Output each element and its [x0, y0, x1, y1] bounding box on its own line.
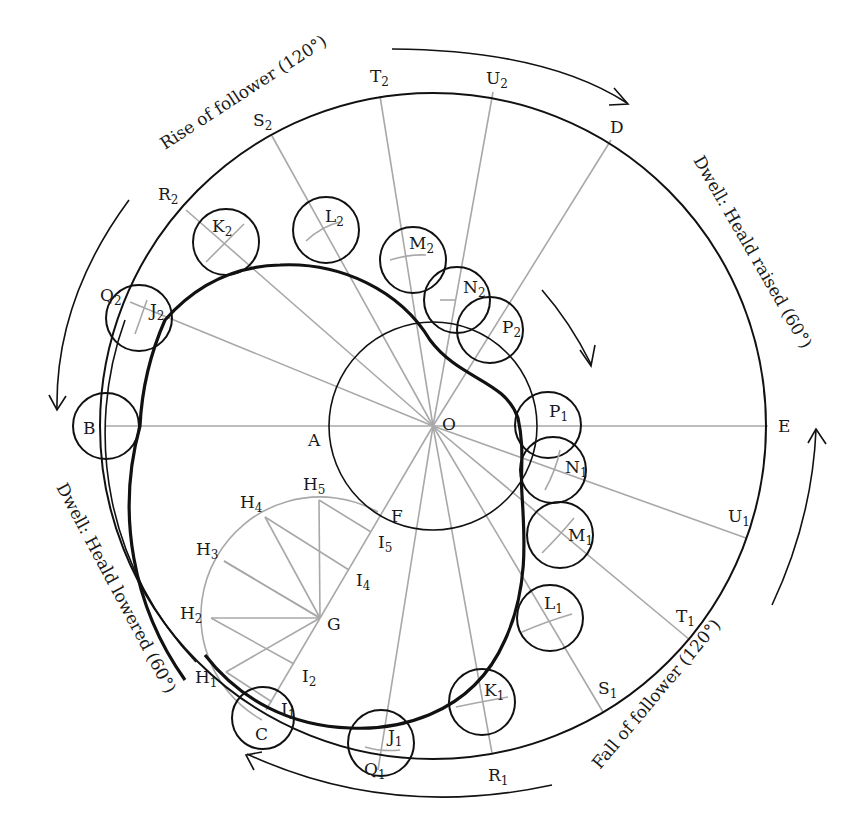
- harmonic-semicircle: [201, 497, 378, 720]
- label-J2: J2: [148, 300, 164, 323]
- label-L1: L1: [544, 593, 563, 616]
- line-OQ2: [130, 302, 433, 426]
- label-G: G: [327, 614, 341, 634]
- label-H5: H5: [303, 474, 325, 497]
- label-R1: R1: [488, 765, 508, 788]
- label-U2: U2: [486, 68, 508, 91]
- label-K2: K2: [212, 216, 232, 239]
- label-Q1: Q1: [364, 759, 386, 782]
- label-L2: L2: [325, 206, 344, 229]
- label-H4: H4: [240, 492, 263, 515]
- label-C: C: [255, 724, 268, 744]
- label-D: D: [610, 117, 624, 137]
- label-N2: N2: [463, 277, 486, 300]
- label-H2: H2: [180, 603, 202, 626]
- arrow-top: [392, 49, 627, 103]
- label-F: F: [391, 506, 403, 526]
- line-OS2: [272, 136, 433, 426]
- line-OC: [266, 426, 433, 710]
- label-O: O: [442, 414, 456, 434]
- label-P1: P1: [549, 401, 568, 424]
- label-I1: I1: [281, 699, 295, 722]
- line-G-H5: [319, 500, 320, 618]
- rollers: [73, 197, 593, 776]
- label-E: E: [778, 416, 790, 436]
- cam-diagram: Rise of follower (120°) Dwell: Heald rai…: [0, 0, 867, 838]
- line-OR2: [186, 210, 433, 426]
- line-G-H4: [265, 517, 320, 618]
- line-G-H1: [226, 618, 320, 672]
- label-P2: P2: [502, 317, 521, 340]
- label-Q2: Q2: [100, 285, 122, 308]
- label-I4: I4: [356, 570, 371, 593]
- label-K1: K1: [484, 680, 504, 703]
- label-T2: T2: [370, 66, 389, 89]
- label-U1: U1: [728, 506, 750, 529]
- line-OQ1: [378, 426, 433, 770]
- caption-dwell-lowered: Dwell: Heald lowered (60°): [52, 479, 180, 696]
- arrow-right-head: [808, 429, 826, 444]
- arrow-right: [772, 430, 816, 605]
- label-S1: S1: [598, 678, 617, 701]
- label-M2: M2: [409, 233, 434, 256]
- line-OT2: [380, 96, 433, 426]
- arrow-bottom-head: [246, 752, 262, 770]
- line-H4-I4: [265, 517, 349, 570]
- label-H3: H3: [196, 539, 218, 562]
- line-H3-G: [224, 561, 320, 618]
- label-R2: R2: [158, 184, 178, 207]
- label-M1: M1: [568, 525, 593, 548]
- label-T1: T1: [676, 606, 695, 629]
- roller-P1: [515, 392, 581, 458]
- arrow-rotation: [542, 290, 591, 364]
- label-S2: S2: [253, 110, 272, 133]
- caption-dwell-raised: Dwell: Heald raised (60°): [690, 152, 817, 352]
- mark-M2: [390, 255, 426, 260]
- label-I5: I5: [378, 532, 392, 555]
- roller-J1: [348, 710, 414, 776]
- line-OD: [433, 140, 611, 426]
- line-OU2: [433, 92, 493, 426]
- caption-rise: Rise of follower (120°): [156, 31, 330, 154]
- label-J1: J1: [386, 726, 402, 749]
- label-A: A: [307, 430, 321, 450]
- label-I2: I2: [302, 666, 316, 689]
- label-B: B: [83, 418, 96, 438]
- harmonic-construction: [201, 497, 378, 720]
